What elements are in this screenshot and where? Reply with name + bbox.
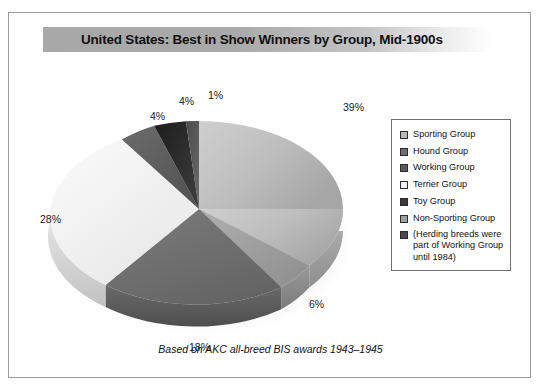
legend-swatch-icon <box>400 231 408 239</box>
legend-item-terrier[interactable]: Terrier Group <box>400 179 504 190</box>
legend-label: Non-Sporting Group <box>413 213 495 224</box>
legend-swatch-icon <box>400 131 408 139</box>
legend-label: (Herding breeds were part of Working Gro… <box>413 229 504 263</box>
legend-item-working[interactable]: Working Group <box>400 162 504 173</box>
pct-label-non-sporting: 6% <box>309 298 324 310</box>
pct-label-working: 4% <box>150 110 165 122</box>
pct-label-herding: 1% <box>208 89 223 101</box>
legend-swatch-icon <box>400 164 408 172</box>
legend-item-herding-note[interactable]: (Herding breeds were part of Working Gro… <box>400 229 504 263</box>
legend-swatch-icon <box>400 181 408 189</box>
legend-label: Hound Group <box>413 146 468 157</box>
legend-label: Sporting Group <box>413 129 475 140</box>
figure-frame: United States: Best in Show Winners by G… <box>8 12 531 378</box>
figure-caption: Based on AKC all-breed BIS awards 1943–1… <box>9 343 532 355</box>
legend: Sporting Group Hound Group Working Group… <box>391 119 511 271</box>
legend-swatch-icon <box>400 148 408 156</box>
pie-chart <box>19 91 379 341</box>
legend-label: Toy Group <box>413 196 455 207</box>
legend-item-hound[interactable]: Hound Group <box>400 146 504 157</box>
legend-item-non-sporting[interactable]: Non-Sporting Group <box>400 213 504 224</box>
pct-label-sporting: 39% <box>343 101 364 113</box>
pie-chart-svg <box>19 91 379 341</box>
legend-item-toy[interactable]: Toy Group <box>400 196 504 207</box>
pct-label-toy: 4% <box>179 95 194 107</box>
legend-label: Working Group <box>413 162 475 173</box>
slice-sporting[interactable] <box>199 121 343 209</box>
legend-item-sporting[interactable]: Sporting Group <box>400 129 504 140</box>
legend-swatch-icon <box>400 198 408 206</box>
page-title: United States: Best in Show Winners by G… <box>81 29 501 51</box>
legend-label: Terrier Group <box>413 179 467 190</box>
pct-label-terrier: 28% <box>40 213 61 225</box>
legend-swatch-icon <box>400 215 408 223</box>
